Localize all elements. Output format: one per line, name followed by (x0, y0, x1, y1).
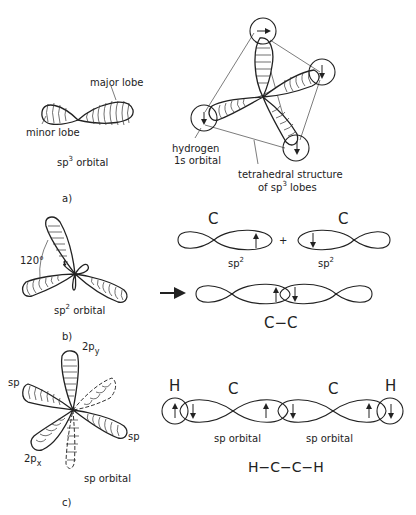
tetrahedral-label: tetrahedral structure (238, 169, 343, 180)
c-c-label: C−C (264, 314, 298, 332)
c-right-label: C (328, 380, 338, 398)
sp3-orbital-label: sp3 orbital (57, 155, 108, 168)
caption-b: b) (62, 331, 72, 342)
acetylene-bonds (162, 398, 403, 424)
sp3-single-orbital (42, 86, 133, 125)
2py-label: 2py (82, 341, 100, 356)
carbon-left-label: C (208, 210, 218, 228)
molecule-formula: H−C−C−H (248, 459, 324, 475)
sp2-orbital-label: sp2 orbital (54, 303, 105, 316)
caption-c: c) (62, 497, 71, 508)
sp-right-label: sp (128, 431, 140, 442)
sp-left-label: sp (8, 377, 20, 388)
angle-label: 120° (20, 255, 44, 266)
orbital-diagram: major lobe minor lobe sp3 orbital (0, 0, 416, 515)
h-left-label: H (169, 377, 180, 395)
sp-orbital-right-label: sp orbital (306, 433, 353, 444)
c-c-bond (196, 284, 372, 304)
minor-lobe-label: minor lobe (26, 127, 80, 138)
sp-orbital (23, 351, 127, 469)
tetrahedral-sub-label: of sp3 lobes (258, 180, 317, 193)
carbon-right-label: C (338, 210, 348, 228)
plus-sign: + (279, 235, 287, 246)
hydrogen-label: hydrogen (172, 143, 219, 154)
sp-orbital-left-label: sp orbital (214, 433, 261, 444)
h-right-label: H (385, 377, 396, 395)
sp-orbital-label: sp orbital (84, 473, 131, 484)
sp2-right-label: sp2 (318, 256, 334, 269)
hydrogen-1s-label: 1s orbital (174, 155, 221, 166)
caption-a: a) (62, 193, 72, 204)
sp2-left-label: sp2 (228, 256, 244, 269)
2px-label: 2px (24, 453, 42, 468)
c-left-label: C (228, 380, 238, 398)
major-lobe-label: major lobe (90, 77, 143, 88)
